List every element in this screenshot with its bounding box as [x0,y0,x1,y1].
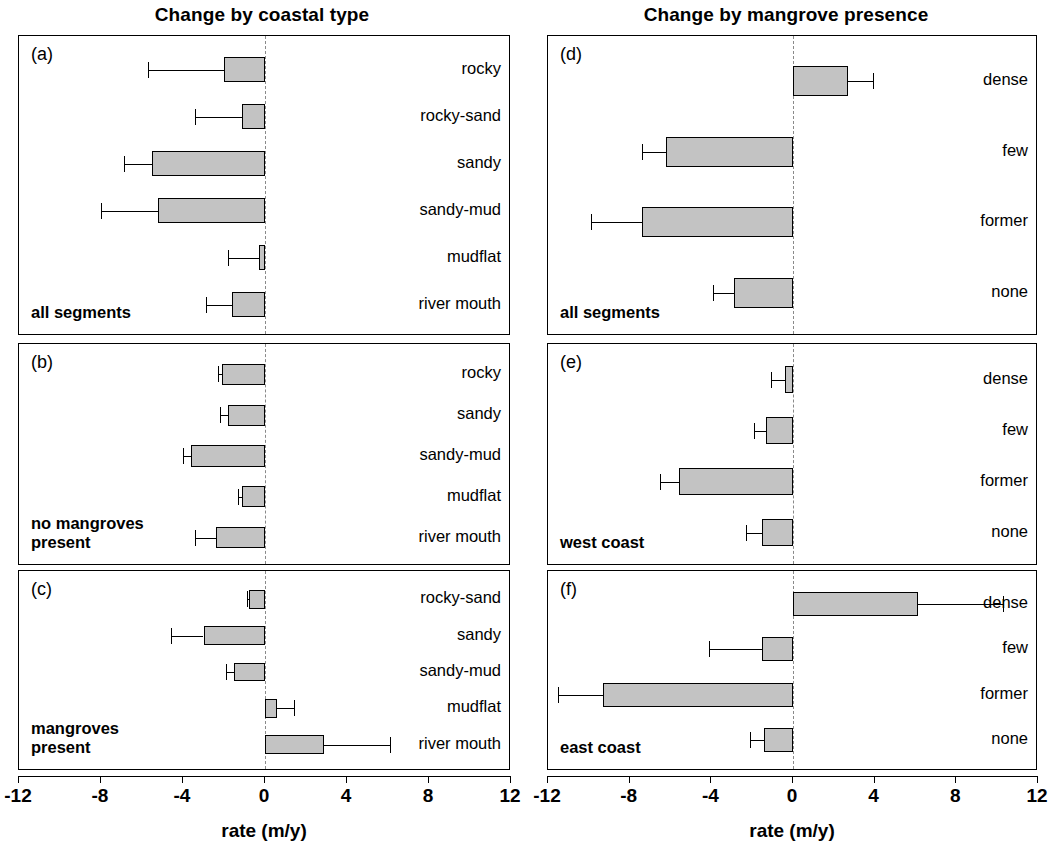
axis-tick-label: -8 [620,785,637,807]
axis-tick [629,776,630,783]
category-label-sandy: sandy [457,153,501,172]
error-bar-cap [228,250,229,266]
axis-tick [510,776,511,783]
panel-c: rocky-sandsandysandy-mudmudflatriver mou… [18,570,510,770]
x-axis-title-left: rate (m/y) [18,820,510,842]
bar [642,207,793,237]
error-bar-cap [750,732,751,748]
category-label-few: few [1002,638,1028,657]
error-bar-cap [206,297,207,313]
left-column-title: Change by coastal type [12,4,512,26]
error-bar-line [195,538,216,539]
error-bar-line [226,672,234,673]
error-bar-cap [218,366,219,382]
error-bar-line [228,258,259,259]
error-bar-cap [220,407,221,423]
bar [216,527,265,548]
error-bar-line [195,117,242,118]
plot-area: densefewformernone(e)west coast [548,344,1036,564]
plot-area: densefewformernone(f)east coast [548,571,1036,769]
bar [762,519,793,546]
category-label-few: few [1002,141,1028,160]
bar [191,445,265,466]
error-bar-line [754,431,766,432]
error-bar-line [220,415,228,416]
category-label-sandy: sandy [457,404,501,423]
panel-letter: (f) [560,579,577,600]
error-bar-cap [183,448,184,464]
panel-f: densefewformernone(f)east coast [547,570,1037,770]
bar [249,590,265,609]
category-label-rocky: rocky [462,59,501,78]
bar [222,364,265,385]
x-axis-left: -12-8-404812 [18,776,510,810]
panel-annotation: no mangroves present [31,514,144,552]
error-bar-line [848,81,873,82]
error-bar-cap [148,62,149,78]
category-label-mudflat: mudflat [447,486,501,505]
category-label-few: few [1002,420,1028,439]
axis-tick-label: 0 [259,785,270,807]
error-bar-line [750,740,764,741]
error-bar-line [713,293,733,294]
bar [242,104,265,128]
category-label-none: none [991,729,1028,748]
bar [762,637,793,661]
x-axis-right: -12-8-404812 [547,776,1037,810]
axis-tick [428,776,429,783]
error-bar-line [206,305,233,306]
panel-letter: (e) [560,352,582,373]
figure-root: Change by coastal type Change by mangrov… [0,0,1057,862]
bar [224,57,265,81]
error-bar-cap [226,664,227,680]
axis-tick [955,776,956,783]
axis-tick [264,776,265,783]
zero-reference-line [265,344,266,564]
error-bar-cap [873,73,874,89]
error-bar-cap [294,700,295,716]
error-bar-line [746,533,762,534]
panel-annotation: mangroves present [31,719,119,757]
axis-tick [18,776,19,783]
plot-area: densefewformernone(d)all segments [548,36,1036,334]
error-bar-cap [709,641,710,657]
category-label-dense: dense [983,70,1028,89]
error-bar-cap [754,423,755,439]
error-bar-cap [558,687,559,703]
bar [265,735,324,754]
error-bar-line [642,152,667,153]
zero-reference-line [793,344,794,564]
axis-tick [346,776,347,783]
panel-letter: (a) [31,44,53,65]
panel-d: densefewformernone(d)all segments [547,35,1037,335]
bar [152,151,265,175]
axis-tick-label: 8 [423,785,434,807]
error-bar-line [183,456,191,457]
axis-tick-label: -12 [4,785,31,807]
plot-area: rockyrocky-sandsandysandy-mudmudflatrive… [19,36,509,334]
category-label-sandy-mud: sandy-mud [419,200,501,219]
x-axis-title-right: rate (m/y) [547,820,1037,842]
axis-tick [874,776,875,783]
right-column-title: Change by mangrove presence [536,4,1036,26]
category-label-none: none [991,522,1028,541]
error-bar-line [771,380,785,381]
panel-letter: (b) [31,352,53,373]
error-bar-cap [195,109,196,125]
error-bar-line [558,695,603,696]
axis-tick [547,776,548,783]
category-label-mudflat: mudflat [447,247,501,266]
panel-e: densefewformernone(e)west coast [547,343,1037,565]
error-bar-line [148,70,224,71]
error-bar-cap [713,285,714,301]
axis-tick-label: -4 [702,785,719,807]
error-bar-cap [247,591,248,607]
error-bar-line [277,708,293,709]
category-label-rocky-sand: rocky-sand [420,106,501,125]
category-label-rocky: rocky [462,363,501,382]
category-label-former: former [980,211,1028,230]
error-bar-cap [124,156,125,172]
category-label-river-mouth: river mouth [418,734,501,753]
axis-tick [1037,776,1038,783]
error-bar-cap [390,737,391,753]
